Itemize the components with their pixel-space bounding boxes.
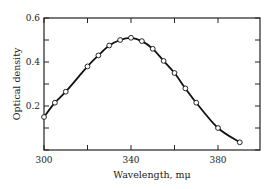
y-tick-labels: 0.20.40.6 [26,13,41,111]
data-point-marker [172,71,177,76]
axis-ticks [44,18,260,150]
data-point-marker [216,126,221,131]
data-curve [44,38,240,143]
data-markers [42,35,243,144]
data-point-marker [183,86,188,91]
y-tick-label: 0.4 [26,57,41,67]
data-point-marker [194,100,199,105]
data-point-marker [118,38,123,43]
x-tick-label: 300 [35,155,52,165]
x-tick-labels: 300340380 [35,155,226,165]
data-point-marker [107,43,112,48]
x-tick-label: 340 [122,155,139,165]
plot-frame [44,18,260,150]
data-point-marker [85,64,90,69]
y-axis-title: Optical density [11,47,22,120]
plot-border [44,18,260,150]
data-point-marker [237,140,242,145]
optical-density-chart: 300340380 0.20.40.6 Wavelength, mμ Optic… [0,0,274,189]
x-tick-label: 380 [209,155,226,165]
data-point-marker [52,100,57,105]
data-point-marker [150,46,155,51]
data-point-marker [63,89,68,94]
data-point-marker [96,53,101,58]
y-tick-label: 0.2 [26,101,40,111]
y-tick-label: 0.6 [26,13,41,23]
data-point-marker [161,59,166,64]
data-point-marker [139,39,144,44]
x-axis-title: Wavelength, mμ [113,169,191,180]
data-point-marker [42,115,47,120]
data-point-marker [129,35,134,40]
